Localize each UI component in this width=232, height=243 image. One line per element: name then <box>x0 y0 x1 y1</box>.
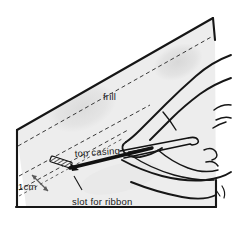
label-1cm: 1cm <box>18 181 37 192</box>
label-frill: frill <box>103 91 116 102</box>
illustration-canvas: frill top casing 1cm slot for ribbon <box>0 0 232 243</box>
label-slot-for-ribbon: slot for ribbon <box>72 196 133 207</box>
sewing-illustration: frill top casing 1cm slot for ribbon <box>0 0 232 243</box>
